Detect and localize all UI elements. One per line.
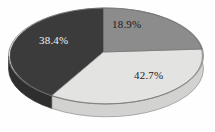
pie-chart: 18.9% 42.7% 38.4% bbox=[0, 0, 215, 132]
pie-chart-graphic bbox=[0, 0, 215, 132]
